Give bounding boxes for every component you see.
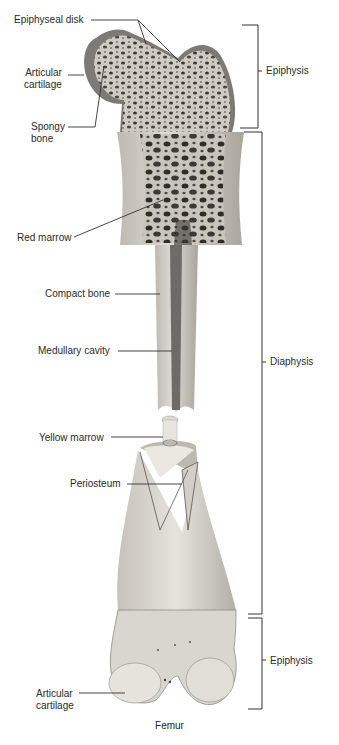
label-line: cartilage [36, 700, 74, 712]
label-line: Articular [24, 67, 62, 79]
femoral-head [84, 29, 235, 132]
label-articular-cartilage-bottom: Articular cartilage [36, 688, 74, 712]
distal-epiphysis [109, 610, 236, 705]
middle-shaft [155, 245, 198, 412]
label-spongy-bone: Spongy bone [31, 121, 65, 145]
label-line: bone [31, 133, 65, 145]
proximal-shaft-section [117, 132, 244, 245]
region-diaphysis: Diaphysis [270, 356, 313, 368]
label-medullary-cavity: Medullary cavity [38, 345, 110, 357]
label-line: Spongy [31, 121, 65, 133]
region-brackets [240, 25, 266, 709]
label-line: Articular [36, 688, 74, 700]
region-epiphysis-bottom: Epiphysis [270, 655, 313, 667]
label-red-marrow: Red marrow [17, 232, 71, 244]
label-yellow-marrow: Yellow marrow [39, 432, 104, 444]
femur-illustration [0, 0, 339, 745]
label-compact-bone: Compact bone [45, 288, 110, 300]
label-articular-cartilage-top: Articular cartilage [24, 67, 62, 91]
figure-caption: Femur [0, 720, 339, 731]
label-line: cartilage [24, 79, 62, 91]
label-periosteum: Periosteum [70, 478, 121, 490]
label-epiphyseal-disk: Epiphyseal disk [14, 14, 83, 26]
region-epiphysis-top: Epiphysis [266, 65, 309, 77]
lower-shaft-section [117, 416, 236, 610]
